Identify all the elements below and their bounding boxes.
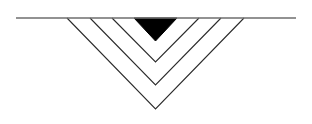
chevron-diagram: Nested chevron cross-section: [0, 0, 312, 124]
figure-container: Nested chevron cross-section: [0, 0, 312, 124]
